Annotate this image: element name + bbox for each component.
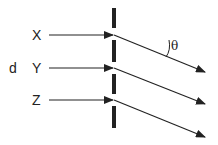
theta-angle-arc [166, 40, 170, 57]
label-z: Z [32, 93, 41, 107]
label-d: d [9, 61, 17, 75]
diffracted-rays [114, 35, 205, 137]
label-theta: θ [171, 39, 178, 53]
diffracted-ray-z [114, 100, 205, 137]
diffracted-ray-y [114, 68, 205, 104]
label-x: X [32, 28, 41, 42]
incident-rays [49, 35, 113, 100]
label-y: Y [32, 61, 41, 75]
diffracted-ray-x [114, 35, 205, 72]
